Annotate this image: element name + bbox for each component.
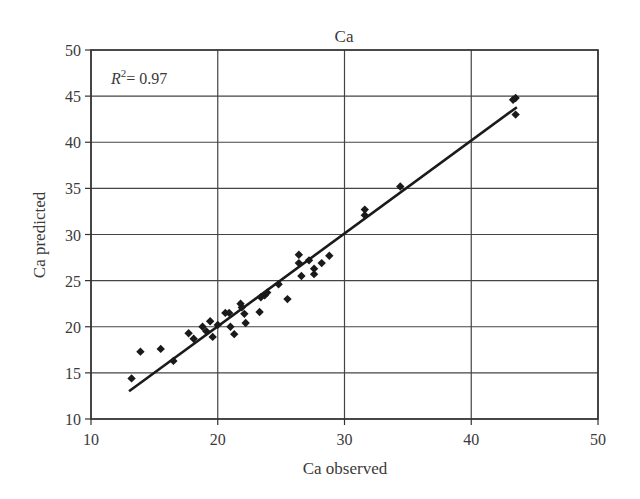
y-tick-label: 50 — [65, 42, 81, 59]
y-tick-label: 40 — [65, 134, 81, 151]
data-point-marker — [127, 374, 135, 382]
x-tick-label: 20 — [210, 431, 226, 448]
data-point-marker — [226, 323, 234, 331]
x-tick-label: 50 — [590, 431, 606, 448]
y-axis-ticks: 101520253035404550 — [65, 42, 91, 428]
y-tick-label: 20 — [65, 319, 81, 336]
y-tick-label: 15 — [65, 365, 81, 382]
y-axis-label: Ca predicted — [30, 191, 49, 278]
r-squared-annotation: R2= 0.97 — [110, 67, 167, 87]
y-tick-label: 45 — [65, 88, 81, 105]
regression-line — [129, 107, 517, 391]
data-point-marker — [184, 329, 192, 337]
y-tick-label: 30 — [65, 227, 81, 244]
chart-title: Ca — [335, 27, 354, 46]
data-point-marker — [317, 259, 325, 267]
data-points — [127, 94, 519, 383]
data-point-marker — [208, 333, 216, 341]
x-axis-label: Ca observed — [303, 459, 388, 478]
x-tick-label: 40 — [463, 431, 479, 448]
data-point-marker — [310, 270, 318, 278]
x-tick-label: 30 — [337, 431, 353, 448]
x-tick-label: 10 — [83, 431, 99, 448]
scatter-chart: Ca 1020304050 101520253035404550 R2= 0.9… — [0, 0, 640, 499]
data-point-marker — [274, 280, 282, 288]
x-axis-ticks: 1020304050 — [83, 419, 606, 448]
data-point-marker — [295, 251, 303, 259]
data-point-marker — [297, 272, 305, 280]
data-point-marker — [230, 330, 238, 338]
y-tick-label: 25 — [65, 273, 81, 290]
y-tick-label: 10 — [65, 411, 81, 428]
data-point-marker — [255, 308, 263, 316]
y-tick-label: 35 — [65, 180, 81, 197]
data-point-marker — [136, 347, 144, 355]
data-point-marker — [241, 319, 249, 327]
data-point-marker — [283, 295, 291, 303]
data-point-marker — [157, 345, 165, 353]
data-point-marker — [206, 317, 214, 325]
data-point-marker — [325, 252, 333, 260]
